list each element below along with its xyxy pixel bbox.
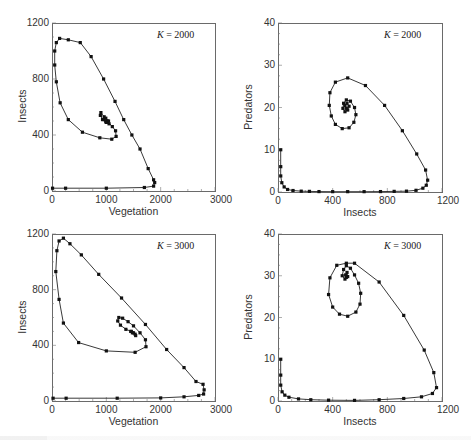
data-point-marker (342, 268, 345, 271)
data-point-marker (279, 374, 282, 377)
data-point-marker (345, 264, 348, 267)
data-point-marker (359, 292, 362, 295)
data-point-marker (338, 313, 341, 316)
data-point-marker (358, 303, 361, 306)
data-point-marker (402, 314, 405, 317)
x-tick-label: 1200 (428, 404, 468, 415)
data-point-marker (349, 267, 352, 270)
data-point-marker (279, 384, 282, 387)
y-axis-label: Predators (242, 277, 254, 357)
data-point-marker (335, 264, 338, 267)
data-point-marker (341, 274, 344, 277)
y-tick-label: 40 (245, 228, 275, 239)
data-point-marker (328, 276, 331, 279)
data-point-marker (287, 396, 290, 399)
data-point-marker (435, 386, 438, 389)
data-point-marker (431, 392, 434, 395)
data-point-marker (346, 315, 349, 318)
data-point-marker (327, 399, 330, 402)
data-point-marker (354, 310, 357, 313)
data-point-marker (327, 293, 330, 296)
data-point-marker (357, 282, 360, 285)
x-tick-label: 0 (258, 404, 298, 415)
data-point-marker (420, 395, 423, 398)
plot-area (0, 0, 471, 443)
x-tick-label: 400 (313, 404, 353, 415)
data-point-marker (423, 348, 426, 351)
parameter-annotation: K = 3000 (384, 240, 421, 251)
data-point-marker (279, 358, 282, 361)
data-point-marker (378, 398, 381, 401)
x-axis-label: Insects (310, 415, 410, 427)
data-point-marker (281, 390, 284, 393)
data-point-marker (345, 276, 348, 279)
data-point-marker (432, 371, 435, 374)
data-point-marker (402, 397, 405, 400)
data-point-marker (353, 273, 356, 276)
data-point-marker (331, 305, 334, 308)
x-tick-label: 800 (367, 404, 407, 415)
data-point-marker (283, 394, 286, 397)
data-point-marker (309, 398, 312, 401)
data-point-marker (353, 262, 356, 265)
data-point-marker (378, 280, 381, 283)
data-point-marker (297, 397, 300, 400)
data-point-marker (353, 399, 356, 402)
